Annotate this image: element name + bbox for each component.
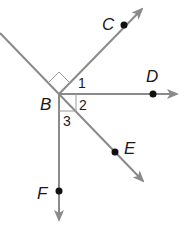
label-f: F (37, 184, 49, 203)
label-d: D (146, 67, 158, 86)
line-through-b-e (0, 33, 143, 181)
point-c (121, 22, 128, 29)
geometry-diagram: C D E F B 1 2 3 (0, 0, 188, 227)
angle-1-label: 1 (78, 75, 86, 91)
angle-2-label: 2 (79, 97, 87, 113)
right-angle-marker-upper (48, 72, 70, 83)
point-f (56, 188, 63, 195)
label-e: E (124, 139, 136, 158)
label-b: B (40, 95, 51, 114)
label-c: C (102, 15, 115, 34)
ray-bc (59, 9, 142, 94)
point-d (150, 91, 157, 98)
angle-3-label: 3 (63, 113, 71, 129)
point-e (112, 149, 119, 156)
